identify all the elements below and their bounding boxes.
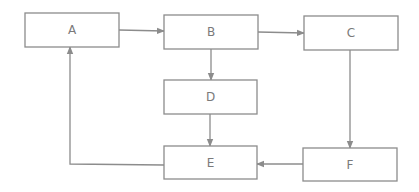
node-label: D — [206, 90, 215, 104]
node-d: D — [164, 80, 257, 114]
node-a: A — [25, 13, 119, 47]
node-e: E — [164, 146, 257, 179]
nodes-layer: ABCDEF — [25, 13, 398, 181]
node-f: F — [303, 148, 397, 181]
node-c: C — [304, 16, 398, 50]
node-b: B — [164, 15, 258, 49]
node-label: B — [207, 25, 215, 39]
node-label: F — [347, 158, 354, 172]
node-label: C — [347, 26, 355, 40]
edge-e-to-a — [70, 47, 164, 165]
edge-a-to-b — [119, 30, 164, 31]
node-label: E — [207, 156, 215, 170]
node-label: A — [68, 23, 77, 37]
edge-b-to-c — [258, 32, 304, 33]
flowchart-diagram: ABCDEF — [0, 0, 419, 192]
